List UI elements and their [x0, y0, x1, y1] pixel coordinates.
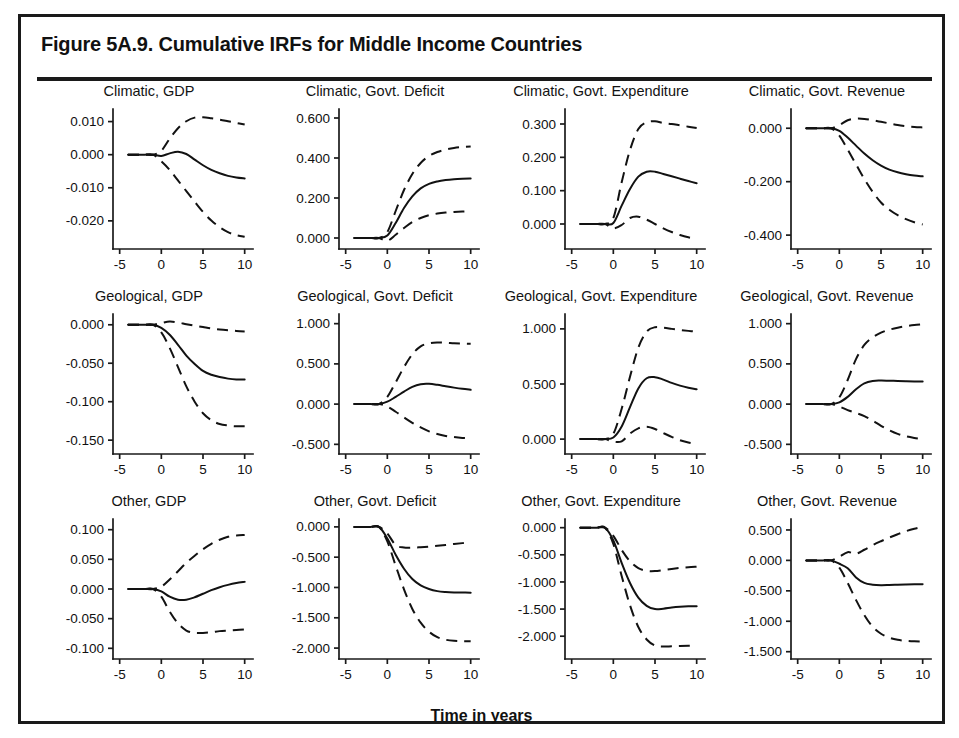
x-tick-label: 0 [836, 667, 844, 682]
irf-panel: Geological, GDP0.000-0.050-0.100-0.150-5… [35, 288, 263, 484]
x-tick-label: -5 [114, 257, 126, 272]
y-tick-label: 0.000 [748, 397, 782, 412]
panel-title: Other, GDP [35, 493, 263, 509]
y-tick-label: -0.150 [66, 433, 104, 448]
figure-title: Figure 5A.9. Cumulative IRFs for Middle … [41, 33, 582, 56]
figure-frame: Figure 5A.9. Cumulative IRFs for Middle … [18, 14, 945, 724]
x-axis-caption: Time in years [21, 707, 942, 725]
y-tick-label: 0.000 [748, 553, 782, 568]
irf-confidence-band-line [806, 404, 923, 439]
irf-panel: Other, Govt. Deficit0.000-0.500-1.000-1.… [261, 493, 489, 689]
panel-plot: 0.1000.0500.000-0.050-0.100-50510 [35, 511, 263, 689]
panel-grid: Climatic, GDP0.0100.000-0.010-0.020-5051… [21, 83, 942, 703]
y-tick-label: 0.200 [296, 191, 330, 206]
x-tick-label: 10 [463, 667, 478, 682]
irf-confidence-band-line [580, 427, 697, 444]
x-tick-label: 5 [425, 257, 433, 272]
irf-panel: Other, GDP0.1000.0500.000-0.050-0.100-50… [35, 493, 263, 689]
panel-plot: 1.0000.5000.000-0.500-50510 [713, 306, 941, 484]
x-tick-label: 10 [237, 462, 252, 477]
x-tick-label: 0 [158, 257, 166, 272]
y-tick-label: -0.050 [66, 356, 104, 371]
irf-confidence-band-line [806, 527, 923, 561]
x-tick-label: 5 [199, 667, 207, 682]
x-tick-label: 0 [158, 462, 166, 477]
x-tick-label: -5 [340, 462, 352, 477]
irf-confidence-band-line [128, 322, 245, 332]
y-tick-label: -0.500 [744, 583, 782, 598]
irf-point-estimate-line [354, 384, 471, 405]
irf-panel: Geological, Govt. Deficit1.0000.5000.000… [261, 288, 489, 484]
x-tick-label: 10 [689, 667, 704, 682]
y-tick-label: -0.200 [744, 174, 782, 189]
irf-confidence-band-line [580, 526, 697, 646]
irf-confidence-band-line [580, 327, 697, 440]
panel-plot: 1.0000.5000.000-0.500-50510 [261, 306, 489, 484]
y-tick-label: -1.000 [292, 580, 330, 595]
panel-plot: 1.0000.5000.000-50510 [487, 306, 715, 484]
panel-plot: 0.0100.000-0.010-0.020-50510 [35, 101, 263, 279]
panel-plot: 0.3000.2000.1000.000-50510 [487, 101, 715, 279]
y-tick-label: -0.500 [292, 550, 330, 565]
x-tick-label: 0 [610, 257, 618, 272]
y-tick-label: -0.100 [66, 641, 104, 656]
x-tick-label: 10 [689, 257, 704, 272]
irf-confidence-band-line [128, 117, 245, 155]
panel-title: Climatic, Govt. Deficit [261, 83, 489, 99]
irf-confidence-band-line [580, 217, 697, 239]
panel-title: Climatic, Govt. Revenue [713, 83, 941, 99]
y-tick-label: 0.500 [748, 356, 782, 371]
y-tick-label: 0.500 [748, 523, 782, 538]
y-tick-label: 0.000 [748, 121, 782, 136]
x-tick-label: 5 [199, 257, 207, 272]
x-tick-label: 5 [425, 667, 433, 682]
irf-panel: Other, Govt. Expenditure0.000-0.500-1.00… [487, 493, 715, 689]
x-tick-label: 10 [915, 257, 930, 272]
irf-panel: Climatic, Govt. Deficit0.6000.4000.2000.… [261, 83, 489, 279]
x-tick-label: -5 [114, 667, 126, 682]
irf-point-estimate-line [580, 377, 697, 439]
x-tick-label: 5 [877, 462, 885, 477]
irf-confidence-band-line [580, 121, 697, 224]
y-tick-label: 0.000 [522, 432, 556, 447]
y-tick-label: -2.000 [518, 629, 556, 644]
x-tick-label: -5 [566, 257, 578, 272]
x-tick-label: -5 [566, 462, 578, 477]
x-tick-label: 5 [651, 462, 659, 477]
y-tick-label: -2.000 [292, 641, 330, 656]
y-tick-label: -1.500 [292, 610, 330, 625]
x-tick-label: 0 [836, 257, 844, 272]
x-tick-label: 10 [463, 257, 478, 272]
y-tick-label: -1.000 [518, 575, 556, 590]
y-tick-label: 0.000 [296, 231, 330, 246]
panel-plot: 0.000-0.200-0.400-50510 [713, 101, 941, 279]
y-tick-label: 0.000 [70, 147, 104, 162]
irf-point-estimate-line [806, 381, 923, 405]
y-tick-label: 1.000 [522, 321, 556, 336]
panel-title: Climatic, Govt. Expenditure [487, 83, 715, 99]
irf-point-estimate-line [354, 179, 471, 239]
y-tick-label: -1.500 [518, 602, 556, 617]
y-tick-label: 0.300 [522, 117, 556, 132]
irf-confidence-band-line [806, 119, 923, 129]
y-tick-label: 1.000 [296, 316, 330, 331]
y-tick-label: 0.000 [296, 397, 330, 412]
x-tick-label: 10 [689, 462, 704, 477]
x-tick-label: 5 [877, 667, 885, 682]
x-tick-label: 10 [915, 667, 930, 682]
x-tick-label: -5 [566, 667, 578, 682]
y-tick-label: 0.000 [522, 520, 556, 535]
irf-point-estimate-line [128, 582, 245, 600]
irf-confidence-band-line [354, 343, 471, 405]
y-tick-label: -1.500 [744, 644, 782, 659]
irf-confidence-band-line [354, 404, 471, 438]
panel-title: Other, Govt. Revenue [713, 493, 941, 509]
x-tick-label: 0 [610, 667, 618, 682]
x-tick-label: 0 [158, 667, 166, 682]
title-divider [37, 77, 932, 81]
y-tick-label: -0.020 [66, 213, 104, 228]
x-tick-label: 5 [425, 462, 433, 477]
y-tick-label: -0.500 [518, 547, 556, 562]
y-tick-label: 0.000 [296, 519, 330, 534]
x-tick-label: -5 [792, 462, 804, 477]
